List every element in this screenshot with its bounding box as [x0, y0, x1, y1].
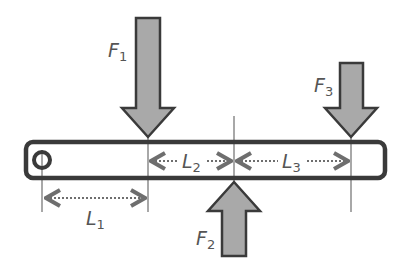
lever-diagram: F1 F2 F3 L1 L2 L3 — [0, 0, 411, 273]
force-f1-arrow-icon — [122, 18, 174, 137]
label-l3: L3 — [282, 150, 301, 175]
force-f2-arrow-icon — [208, 182, 260, 256]
label-f3: F3 — [314, 74, 333, 99]
label-f2: F2 — [196, 227, 215, 252]
label-l1: L1 — [86, 207, 105, 232]
label-f1: F1 — [108, 39, 127, 64]
label-l2: L2 — [182, 150, 201, 175]
force-f3-arrow-icon — [325, 63, 377, 137]
